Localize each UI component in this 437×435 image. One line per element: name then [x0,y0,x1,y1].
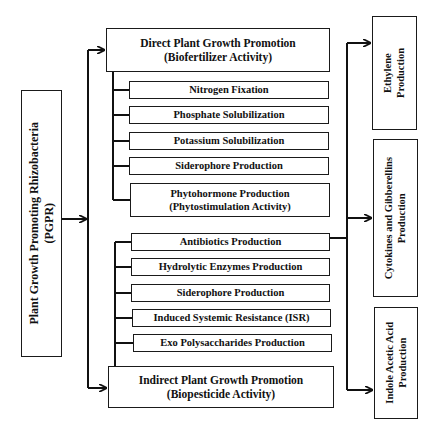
indirect-item-siderophore: Siderophore Production [131,284,330,302]
indirect-title: Indirect Plant Growth Promotion [139,373,304,387]
indirect-subtitle: (Biopesticide Activity) [167,387,275,401]
pgpr-root-box: Plant Growth Promoting Rhizobacteria (PG… [21,90,62,357]
direct-item-phytohormone: Phytohormone Production (Phytostimulatio… [130,183,330,217]
output-cytokines-box: Cytokines and Gibberellins Production [373,139,418,297]
item-sublabel: (Phytostimulation Activity) [169,200,291,213]
output-iaa-box: Indole Acetic Acid Production [374,307,418,419]
item-label: Potassium Solubilization [174,134,285,147]
pgpr-title: Plant Growth Promoting Rhizobacteria [27,122,42,325]
output-label: Indole Acetic Acid [383,322,396,404]
pgpr-abbrev: (PGPR) [42,122,57,325]
item-label: Nitrogen Fixation [189,83,268,96]
output-label: Ethylene [381,48,394,98]
direct-promotion-box: Direct Plant Growth Promotion (Biofertil… [106,28,330,72]
direct-item-phosphate: Phosphate Solubilization [129,106,329,124]
item-label: Phytohormone Production [170,187,289,200]
output-label: Cytokines and Gibberellins [382,157,395,279]
item-label: Antibiotics Production [180,235,282,248]
indirect-promotion-box: Indirect Plant Growth Promotion (Biopest… [108,366,334,408]
indirect-item-hydrolytic: Hydrolytic Enzymes Production [131,258,330,276]
direct-title: Direct Plant Growth Promotion [140,36,296,50]
direct-item-nitrogen: Nitrogen Fixation [129,81,329,99]
item-label: Siderophore Production [175,159,283,172]
direct-item-siderophore: Siderophore Production [129,157,329,175]
direct-subtitle: (Biofertilizer Activity) [164,50,272,64]
output-sublabel: Production [396,322,409,404]
item-label: Hydrolytic Enzymes Production [159,260,303,273]
indirect-item-isr: Induced Systemic Resistance (ISR) [132,309,331,327]
item-label: Phosphate Solubilization [173,108,284,121]
indirect-item-exopolysaccharides: Exo Polysaccharides Production [133,334,332,352]
output-ethylene-box: Ethylene Production [372,16,417,130]
output-sublabel: Production [395,48,408,98]
output-sublabel: Production [396,157,409,279]
item-label: Exo Polysaccharides Production [160,336,304,349]
item-label: Siderophore Production [177,286,285,299]
item-label: Induced Systemic Resistance (ISR) [153,311,309,324]
indirect-item-antibiotics: Antibiotics Production [131,233,330,251]
direct-item-potassium: Potassium Solubilization [129,132,329,150]
